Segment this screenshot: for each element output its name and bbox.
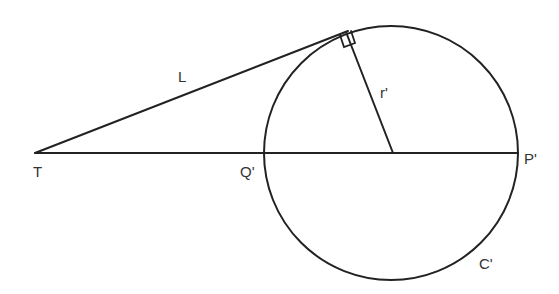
tangent-secant-diagram: L r' T Q' P' C' [0,0,559,294]
label-q-prime: Q' [240,163,255,180]
label-t: T [33,163,42,180]
label-l: L [178,68,186,85]
label-p-prime: P' [524,150,537,167]
tangent-line-l [35,31,348,153]
label-r-prime: r' [380,84,388,101]
label-c-prime: C' [479,255,493,272]
